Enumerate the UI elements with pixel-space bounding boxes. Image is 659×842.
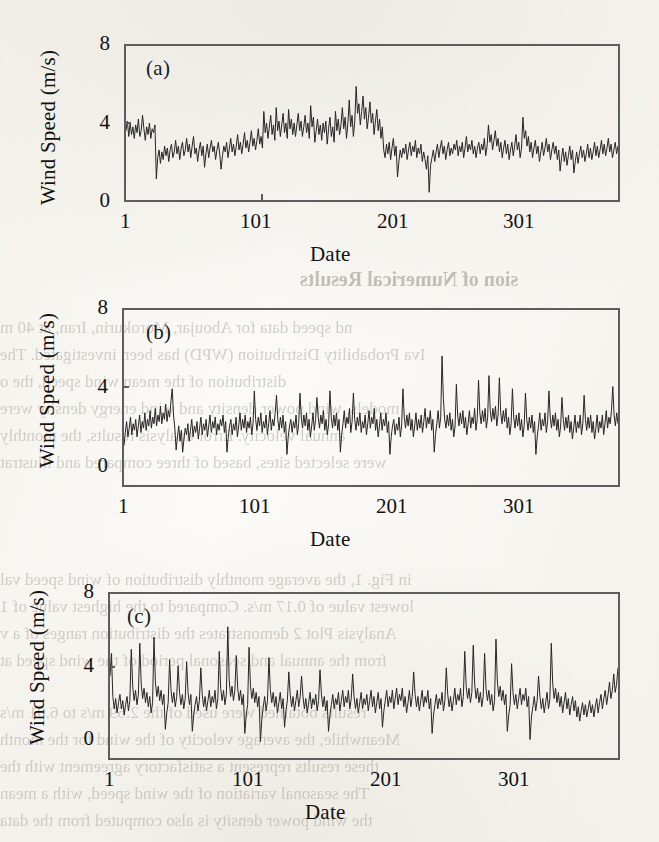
panel-c-xtick-101: 101 bbox=[232, 767, 264, 792]
panel-c-x-axis-label: Date bbox=[305, 800, 345, 825]
panel-a-xtick-201: 201 bbox=[377, 209, 409, 234]
panel-b-xtick-201: 201 bbox=[376, 494, 408, 519]
panel-c-plot-frame bbox=[108, 592, 620, 760]
showthrough-line: sion of Numerical Results bbox=[300, 268, 518, 291]
panel-a-xtick-101: 101 bbox=[240, 209, 272, 234]
panel-b-ytick-4: 4 bbox=[78, 374, 108, 399]
panel-c-letter: (c) bbox=[127, 604, 151, 629]
panel-b-ytick-mark-4 bbox=[122, 386, 129, 388]
panel-a-ytick-4: 4 bbox=[80, 110, 110, 135]
panel-b-letter: (b) bbox=[146, 320, 171, 345]
panel-a-ytick-mark-4 bbox=[124, 122, 131, 124]
panel-a-plot-frame bbox=[124, 44, 620, 202]
showthrough-line: these results represent a satisfactory a… bbox=[0, 757, 379, 777]
panel-a-x-axis-label: Date bbox=[310, 242, 350, 267]
panel-b-x-axis-label: Date bbox=[310, 527, 350, 552]
panel-a-ytick-8: 8 bbox=[80, 31, 110, 56]
panel-c-ytick-4: 4 bbox=[64, 653, 94, 678]
panel-b-xtick-1: 1 bbox=[118, 494, 129, 519]
panel-c-ytick-0: 0 bbox=[64, 726, 94, 751]
panel-a-series-line bbox=[126, 46, 618, 200]
panel-a-ytick-0: 0 bbox=[80, 188, 110, 213]
panel-c-xtick-201: 201 bbox=[370, 767, 402, 792]
panel-c-series-line bbox=[110, 594, 618, 758]
panel-c-ytick-8: 8 bbox=[64, 579, 94, 604]
panel-b-series-line bbox=[124, 310, 618, 485]
panel-a-xtick-mark-101 bbox=[261, 194, 263, 202]
panel-a-letter: (a) bbox=[146, 56, 170, 81]
scanned-figure-page: sion of Numerical Resultsnd speed data f… bbox=[0, 0, 659, 842]
panel-a-xtick-301: 301 bbox=[503, 209, 535, 234]
panel-c-y-axis-label: Wind Speed (m/s) bbox=[25, 573, 50, 763]
panel-b-plot-frame bbox=[122, 308, 620, 487]
panel-c-xtick-1: 1 bbox=[104, 767, 115, 792]
panel-b-xtick-101: 101 bbox=[239, 494, 271, 519]
panel-b-xtick-301: 301 bbox=[503, 494, 535, 519]
showthrough-line: in Fig. 1, the average monthly distribut… bbox=[0, 570, 412, 590]
panel-b-ytick-8: 8 bbox=[78, 295, 108, 320]
panel-a-y-axis-label: Wind Speed (m/s) bbox=[36, 33, 61, 223]
panel-c-xtick-301: 301 bbox=[498, 767, 530, 792]
panel-a-xtick-1: 1 bbox=[120, 209, 131, 234]
panel-b-ytick-0: 0 bbox=[78, 453, 108, 478]
panel-c-ytick-mark-4 bbox=[108, 666, 115, 668]
panel-b-y-axis-label: Wind Speed (m/s) bbox=[35, 296, 60, 486]
